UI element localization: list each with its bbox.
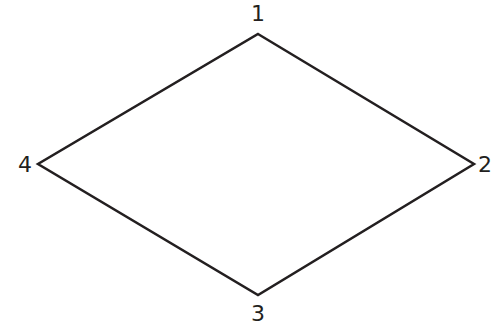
vertex-label-4: 4	[18, 152, 32, 177]
rhombus-diagram: 1 2 3 4	[0, 0, 504, 328]
vertex-label-1: 1	[251, 1, 265, 26]
vertex-label-3: 3	[251, 301, 265, 326]
rhombus-shape	[38, 34, 474, 295]
vertex-label-2: 2	[478, 152, 492, 177]
